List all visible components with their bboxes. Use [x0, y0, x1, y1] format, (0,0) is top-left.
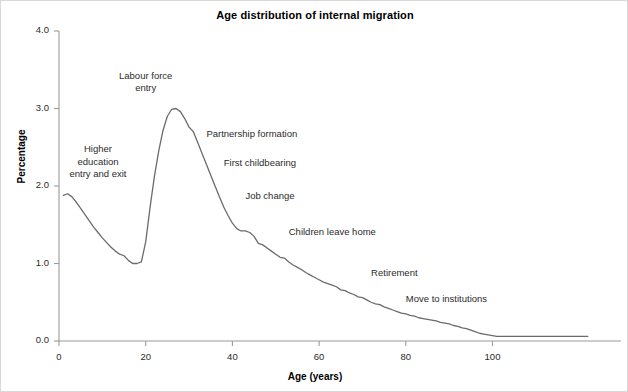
y-axis-tick-label: 1.0 — [1, 257, 49, 268]
y-axis-title: Percentage — [16, 107, 27, 207]
x-axis-title: Age (years) — [1, 371, 628, 382]
chart-annotation: Move to institutions — [406, 293, 487, 306]
chart-annotation: Children leave home — [289, 226, 376, 239]
x-axis-tick-label: 0 — [29, 351, 89, 362]
x-axis-tick-label: 40 — [202, 351, 262, 362]
chart-annotation: Partnership formation — [206, 128, 297, 141]
y-axis-tick-label: 3.0 — [1, 102, 49, 113]
x-axis-tick-label: 20 — [116, 351, 176, 362]
chart-annotation: Job change — [245, 190, 294, 203]
chart-annotation: Higher education entry and exit — [28, 143, 168, 181]
x-axis-tick-label: 100 — [463, 351, 523, 362]
chart-annotation: Labour force entry — [76, 70, 216, 95]
y-axis-tick-label: 0.0 — [1, 334, 49, 345]
x-axis-tick-label: 80 — [376, 351, 436, 362]
chart-figure: Age distribution of internal migration P… — [0, 0, 628, 392]
chart-plot-area — [1, 1, 628, 392]
chart-annotation: First childbearing — [224, 157, 296, 170]
chart-annotation: Retirement — [371, 267, 417, 280]
x-axis-tick-label: 60 — [289, 351, 349, 362]
y-axis-tick-label: 4.0 — [1, 24, 49, 35]
